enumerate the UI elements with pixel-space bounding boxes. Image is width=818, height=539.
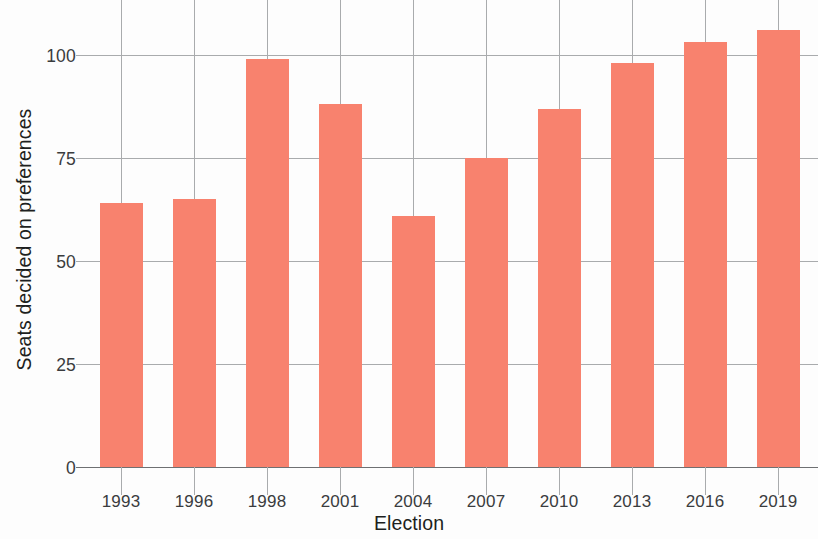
xtick-label-2019: 2019 bbox=[759, 492, 798, 512]
ytick-label-50: 50 bbox=[56, 252, 76, 273]
bar-2019 bbox=[757, 30, 800, 467]
xtick-label-2007: 2007 bbox=[467, 492, 506, 512]
bar-1996 bbox=[173, 199, 216, 467]
bar-2010 bbox=[538, 109, 581, 467]
xtick-label-2013: 2013 bbox=[613, 492, 652, 512]
bar-1993 bbox=[100, 203, 143, 467]
xtick-label-2016: 2016 bbox=[686, 492, 725, 512]
bar-2016 bbox=[684, 42, 727, 467]
chart-figure: 100 75 50 25 0 bbox=[0, 0, 818, 539]
bar-1998 bbox=[246, 59, 289, 467]
plot-area: 100 75 50 25 0 bbox=[0, 0, 818, 467]
xtick-label-2004: 2004 bbox=[394, 492, 433, 512]
gridline-horizontal-0: 0 bbox=[76, 467, 818, 468]
xtick-label-2001: 2001 bbox=[321, 492, 360, 512]
bar-2001 bbox=[319, 104, 362, 467]
bar-2004 bbox=[392, 216, 435, 467]
xtick-label-1998: 1998 bbox=[248, 492, 287, 512]
y-axis-title: Seats decided on preferences bbox=[13, 20, 36, 460]
x-axis-title: Election bbox=[0, 512, 818, 535]
ytick-label-25: 25 bbox=[56, 355, 76, 376]
bar-2007 bbox=[465, 158, 508, 467]
xtick-label-1996: 1996 bbox=[175, 492, 214, 512]
bar-2013 bbox=[611, 63, 654, 467]
xtick-label-1993: 1993 bbox=[102, 492, 141, 512]
ytick-label-100: 100 bbox=[46, 46, 76, 67]
xtick-label-2010: 2010 bbox=[540, 492, 579, 512]
ytick-label-75: 75 bbox=[56, 149, 76, 170]
ytick-label-0: 0 bbox=[66, 458, 76, 479]
